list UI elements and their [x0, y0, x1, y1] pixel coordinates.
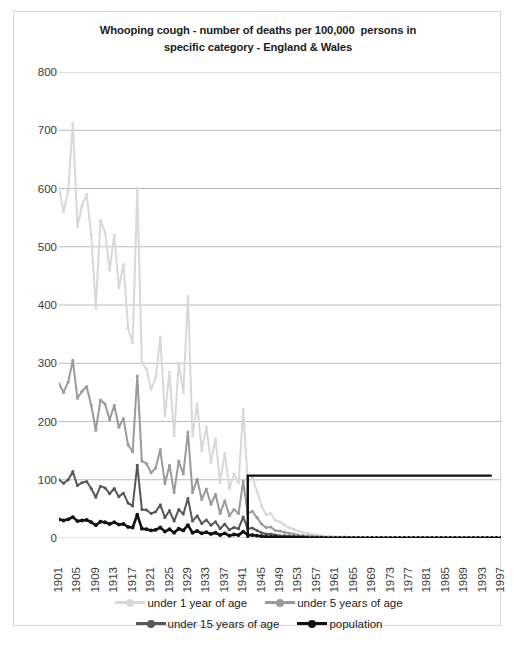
y-axis-tick-label: 100 — [13, 474, 57, 486]
series-point — [62, 482, 65, 485]
chart-frame: Whooping cough - number of deaths per 10… — [13, 11, 501, 626]
series-point — [250, 533, 254, 537]
series-point — [154, 510, 157, 513]
series-point — [112, 520, 116, 524]
series-point — [94, 306, 97, 309]
x-axis-tick-label: 1909 — [90, 567, 102, 593]
series-point — [421, 536, 425, 538]
series-point — [485, 536, 489, 538]
series-point — [283, 531, 286, 534]
series-point — [200, 531, 204, 535]
legend-item[interactable]: under 1 year of age — [115, 597, 247, 609]
series-point — [288, 526, 291, 529]
series-point — [122, 263, 125, 266]
series-point — [150, 512, 153, 515]
series-point — [205, 488, 208, 491]
series-point — [214, 520, 217, 523]
legend-item[interactable]: population — [297, 618, 382, 630]
series-point — [379, 536, 383, 538]
series-point — [145, 509, 148, 512]
series-point — [158, 526, 162, 530]
series-point — [122, 417, 125, 420]
series-point — [71, 359, 74, 362]
x-axis-tick-label: 1957 — [311, 567, 323, 593]
series-point — [228, 514, 231, 517]
series-point — [140, 508, 143, 511]
series-point — [223, 523, 226, 526]
series-point — [182, 391, 185, 394]
series-point — [214, 437, 217, 440]
series-point — [163, 530, 167, 534]
series-point — [71, 470, 74, 473]
series-point — [108, 522, 112, 526]
series-point — [241, 530, 245, 534]
chart-page: Whooping cough - number of deaths per 10… — [0, 0, 514, 653]
series-point — [168, 509, 171, 512]
series-point — [416, 536, 420, 538]
x-axis-tick-label: 1997 — [495, 567, 507, 593]
series-point — [255, 529, 258, 532]
x-axis-tick-label: 1953 — [292, 567, 304, 593]
series-point — [191, 531, 195, 535]
series-point — [140, 460, 143, 463]
series-point — [104, 486, 107, 489]
series-point — [117, 523, 121, 527]
legend-row: under 1 year of ageunder 5 years of age — [54, 592, 464, 613]
series-point — [150, 471, 153, 474]
legend-item[interactable]: under 5 years of age — [265, 597, 403, 609]
series-point — [237, 533, 241, 537]
legend-swatch-icon — [265, 598, 295, 608]
x-axis-tick-label: 1901 — [53, 567, 65, 593]
x-axis-tick-label: 1985 — [440, 567, 452, 593]
series-point — [205, 518, 208, 521]
series-point — [76, 519, 80, 523]
series-point — [393, 536, 397, 538]
series-point — [85, 385, 88, 388]
series-point — [62, 210, 65, 213]
x-axis-tick-label: 1961 — [329, 567, 341, 593]
series-point — [407, 536, 411, 538]
series-point — [127, 443, 130, 446]
series-point — [356, 536, 360, 538]
series-point — [163, 414, 166, 417]
series-point — [140, 527, 144, 531]
legend-swatch-icon — [297, 619, 327, 629]
x-axis-tick-label: 1973 — [385, 567, 397, 593]
series-point — [232, 508, 235, 511]
series-point — [145, 527, 149, 531]
series-point — [389, 536, 393, 538]
series-point — [255, 534, 259, 538]
series-point — [94, 496, 97, 499]
series-point — [251, 510, 254, 513]
series-point — [99, 520, 103, 524]
legend-item[interactable]: under 15 years of age — [136, 618, 280, 630]
series-point — [186, 295, 189, 298]
series-point — [204, 530, 208, 534]
x-axis-tick-label: 1941 — [237, 567, 249, 593]
series-point — [495, 536, 499, 538]
y-axis-tick-label: 300 — [13, 357, 57, 369]
series-point — [200, 449, 203, 452]
y-axis-tick-label: 500 — [13, 241, 57, 253]
series-point — [149, 529, 153, 533]
series-point — [89, 520, 93, 524]
series-point — [59, 187, 61, 190]
series-point — [435, 536, 439, 538]
series-point — [186, 497, 189, 500]
series-point — [269, 535, 273, 538]
series-point — [131, 341, 134, 344]
series-point — [90, 487, 93, 490]
series-point — [145, 368, 148, 371]
series-point — [177, 527, 181, 531]
series-point — [131, 450, 134, 453]
series-point — [122, 522, 126, 526]
legend-label: under 15 years of age — [168, 618, 280, 630]
series-point — [108, 269, 111, 272]
series-point — [67, 380, 70, 383]
series-point — [260, 523, 263, 526]
x-axis-tick-label: 1933 — [200, 567, 212, 593]
series-point — [159, 448, 162, 451]
series-point — [205, 426, 208, 429]
series-point — [159, 336, 162, 339]
series-point — [283, 524, 286, 527]
